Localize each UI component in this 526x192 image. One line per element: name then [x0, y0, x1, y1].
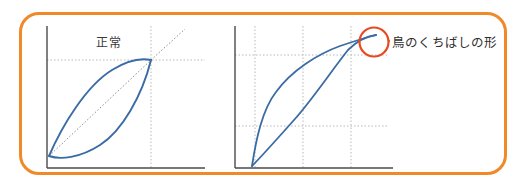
bird-beak-annotation-label: 鳥のくちばしの形	[392, 32, 498, 51]
clipped-text-above-frame	[46, 0, 346, 6]
normal-panel-title: 正常	[96, 33, 121, 50]
